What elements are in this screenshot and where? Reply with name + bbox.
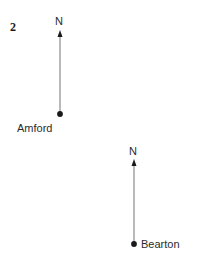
diagram-canvas: 2 N Amford N Bearton bbox=[0, 0, 198, 275]
bearton-place-label: Bearton bbox=[141, 238, 180, 251]
amford-location-marker bbox=[57, 111, 63, 117]
amford-north-label: N bbox=[55, 15, 63, 27]
amford-arrow-head-icon bbox=[58, 30, 63, 37]
amford-north-arrow bbox=[57, 30, 63, 117]
bearton-location-marker bbox=[131, 241, 137, 247]
bearton-north-arrow bbox=[131, 159, 137, 247]
bearton-arrow-head-icon bbox=[132, 159, 137, 166]
bearton-north-label: N bbox=[129, 145, 137, 157]
bearing-diagram-graphics bbox=[0, 0, 198, 275]
amford-place-label: Amford bbox=[17, 122, 52, 135]
